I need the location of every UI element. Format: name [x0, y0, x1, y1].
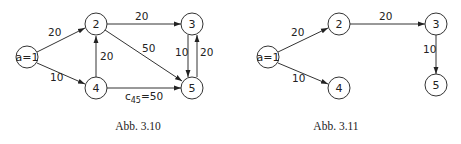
edge-label-1-4: 10 [292, 72, 305, 84]
node-1: a=1 [257, 46, 280, 68]
node-5: 5 [425, 74, 447, 96]
figure-3-10: 20 10 20 20 50 10 20 c45=50 a=1 2 3 4 5 … [16, 10, 214, 132]
node-4: 4 [85, 77, 107, 99]
edge-label-1-4: 10 [50, 71, 63, 83]
svg-text:2: 2 [336, 18, 343, 31]
node-5: 5 [181, 77, 203, 99]
svg-text:5: 5 [189, 82, 196, 95]
node-3: 3 [425, 13, 447, 35]
edge-label-3-5: 10 [175, 46, 188, 58]
node-2: 2 [328, 13, 350, 35]
diagram-canvas: 20 10 20 20 50 10 20 c45=50 a=1 2 3 4 5 … [0, 0, 461, 144]
node-1: a=1 [16, 46, 39, 68]
svg-text:5: 5 [433, 79, 440, 92]
edge-label-1-2: 20 [48, 26, 61, 38]
node-2: 2 [85, 13, 107, 35]
svg-text:a=1: a=1 [257, 51, 280, 64]
figure-caption: Abb. 3.11 [313, 120, 359, 132]
edge-label-4-2: 20 [100, 50, 113, 62]
edge-label-2-5: 50 [142, 42, 155, 54]
edge-label-2-3: 20 [379, 10, 392, 22]
edge-label-5-3: 20 [200, 46, 213, 58]
node-4: 4 [328, 77, 350, 99]
svg-text:2: 2 [93, 18, 100, 31]
edge-label-3-5: 10 [423, 43, 436, 55]
svg-text:3: 3 [433, 18, 440, 31]
svg-text:4: 4 [93, 82, 100, 95]
edge-label-1-2: 20 [291, 26, 304, 38]
edge-label-4-5: c45=50 [125, 90, 163, 105]
figure-caption: Abb. 3.10 [115, 120, 161, 132]
figure-3-11: 20 10 20 10 a=1 2 3 4 5 Abb. 3.11 [257, 10, 447, 132]
svg-text:a=1: a=1 [16, 51, 39, 64]
node-3: 3 [181, 13, 203, 35]
svg-text:3: 3 [189, 18, 196, 31]
svg-text:4: 4 [336, 82, 343, 95]
edge-label-2-3: 20 [135, 10, 148, 22]
edge-2-5 [105, 30, 182, 81]
